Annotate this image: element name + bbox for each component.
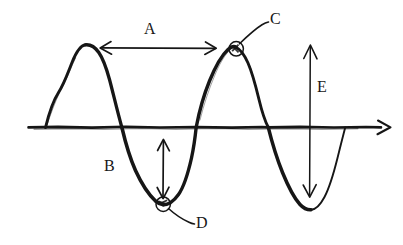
amplitude-double-arrow bbox=[157, 139, 169, 198]
baseline-axis bbox=[29, 121, 391, 135]
leader-line bbox=[240, 22, 269, 44]
wave-diagram: A B C D E bbox=[0, 0, 403, 245]
wavelength-double-arrow-a bbox=[100, 42, 216, 55]
peak-to-trough-double-arrow-e bbox=[303, 45, 317, 197]
label-a: A bbox=[144, 21, 156, 37]
wave-diagram-canvas bbox=[0, 0, 403, 245]
leader-line bbox=[169, 209, 195, 225]
crest-marker-c bbox=[229, 22, 269, 56]
label-d: D bbox=[196, 215, 208, 231]
label-c: C bbox=[270, 11, 281, 27]
trough-marker-d bbox=[156, 197, 195, 224]
label-e: E bbox=[317, 79, 327, 95]
label-b: B bbox=[104, 158, 115, 174]
